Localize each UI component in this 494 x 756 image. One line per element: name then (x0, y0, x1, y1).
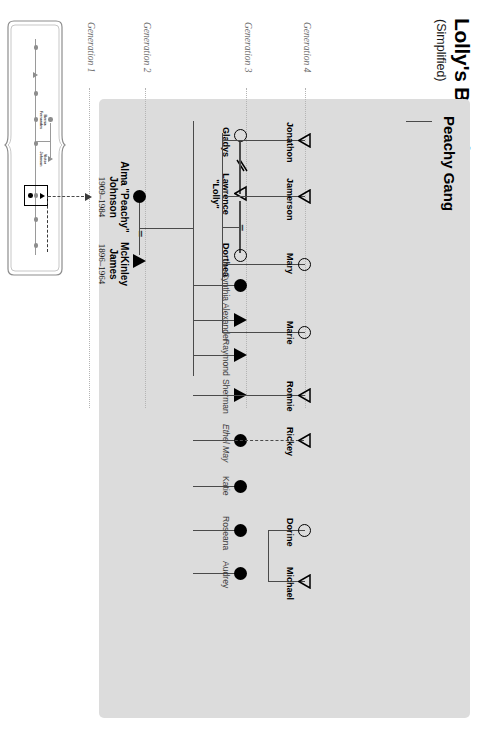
node-dorthea[interactable] (234, 249, 247, 262)
node-ronnie[interactable] (298, 388, 311, 403)
inset-pointer-segment-horizontal (47, 196, 48, 252)
peachy-gang-title: Peachy Gang (441, 116, 458, 211)
node-alma-peachy-johnson[interactable] (133, 190, 146, 203)
node-raymond[interactable] (234, 348, 247, 362)
generation-3-label: Generation 3 (243, 22, 253, 72)
label-mary: Mary (285, 253, 295, 274)
inset-pointer-segment-vertical (48, 196, 84, 197)
mckinley-name-line1: McKinley (119, 242, 130, 286)
generation-1-label: Generation 1 (86, 22, 96, 72)
inset-person-node (34, 217, 39, 222)
node-cynthia[interactable] (234, 279, 247, 292)
gen4-sibling-spine-lolly (222, 133, 223, 333)
label-audrey: Audrey (221, 561, 231, 588)
lawrence-name-line2: "Lolly" (211, 179, 221, 209)
node-jonathon[interactable] (298, 133, 311, 148)
node-lawrence-lolly[interactable] (234, 186, 247, 201)
label-ethel-may: Ethel May (221, 424, 231, 462)
label-dorine: Dorine (285, 518, 295, 547)
label-jonathon: Jonathon (285, 122, 295, 163)
node-roseana[interactable] (234, 524, 247, 537)
inset-highlight-circle (28, 193, 33, 198)
node-mckinley-james[interactable] (133, 254, 146, 268)
alma-name-line2: Johnson (108, 176, 119, 218)
inset-victor-line2: Johnson (39, 152, 43, 167)
inset-bernia-label: Bernia Fernandes (39, 105, 47, 135)
family-tree-canvas: Lolly's Branch (Simplified) Generation 1… (0, 0, 494, 756)
gen3-sibling-spine (193, 121, 194, 376)
inset-person-node (34, 45, 39, 50)
inset-victor-label: Victor Johnson (39, 145, 47, 173)
inset-bernia-line2: Fernandes (39, 111, 43, 129)
mckinley-dates: 1896–1964 (97, 244, 107, 285)
ancestor-inset-cartouche: Bernia Fernandes Victor Johnson (4, 17, 66, 279)
alma-dates: 1909–1984 (97, 177, 107, 218)
node-rickey[interactable] (298, 433, 311, 448)
label-michael: Michael (285, 567, 295, 600)
node-michael[interactable] (298, 574, 311, 589)
label-sherman: Sherman (221, 379, 231, 414)
generation-4-label: Generation 4 (302, 22, 312, 72)
node-jamerson[interactable] (298, 189, 311, 204)
label-roseana: Roseana (221, 516, 231, 550)
node-audrey[interactable] (234, 567, 247, 580)
inset-bernia-line1: Bernia (43, 114, 47, 125)
page-subtitle: (Simplified) (434, 19, 448, 82)
inset-descent-line (37, 141, 51, 142)
label-katie: Katie (221, 476, 231, 496)
inset-person-node (34, 91, 39, 96)
label-raymond: Raymond (221, 339, 231, 376)
label-ronnie: Ronnie (285, 381, 295, 412)
generation-2-label: Generation 2 (142, 22, 152, 72)
generation-1-guideline (89, 88, 90, 408)
mckinley-name-line2: James (108, 248, 119, 279)
inset-pointer-arrowhead (85, 193, 92, 201)
inset-person-node (34, 117, 39, 122)
inset-bernia-node (48, 117, 53, 122)
descent-line-lawrence-dorthea (222, 227, 240, 228)
gen3-spine-left-cap (406, 121, 432, 122)
descent-line-gen2-to-gen3 (140, 228, 194, 229)
generation-2-guideline (145, 88, 146, 408)
node-dorine[interactable] (298, 524, 311, 537)
node-marie[interactable] (298, 326, 311, 339)
label-rickey: Rickey (285, 427, 295, 456)
node-alexander[interactable] (234, 313, 247, 327)
label-jamerson: Jamerson (285, 178, 295, 221)
node-katie[interactable] (234, 480, 247, 493)
inset-victor-line1: Victor (43, 154, 47, 164)
label-lawrence-lolly: Lawrence "Lolly" (210, 172, 231, 216)
label-mckinley-james: McKinley James 1896–1964 (96, 218, 130, 310)
node-mary[interactable] (298, 258, 311, 271)
inset-highlight-triangle (40, 193, 45, 199)
inset-person-node (34, 243, 39, 248)
gen4-sibling-spine-right (268, 530, 269, 582)
label-marie: Marie (285, 321, 295, 345)
inset-person-node (34, 72, 39, 78)
